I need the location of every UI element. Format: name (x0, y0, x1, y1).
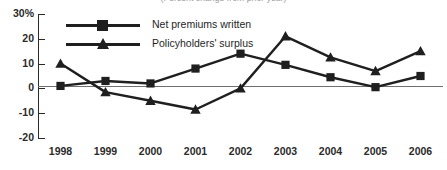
triangle-marker-icon (325, 52, 335, 61)
triangle-marker-icon (280, 31, 290, 40)
y-tick-label: 30% (0, 7, 34, 19)
y-tick-mark (38, 39, 45, 40)
legend-label: Net premiums written (152, 18, 251, 30)
chart-subtitle: (Percent change from prior year) (0, 0, 447, 3)
y-tick-label: -20 (0, 131, 34, 143)
triangle-marker-icon (235, 83, 245, 92)
zero-baseline (38, 86, 443, 87)
triangle-marker-icon (190, 104, 200, 113)
y-axis-line (38, 14, 39, 138)
triangle-marker-icon (55, 58, 65, 67)
square-marker-icon (281, 61, 289, 69)
square-marker-icon (371, 83, 379, 91)
triangle-marker-icon (100, 87, 110, 96)
y-tick-mark (38, 88, 45, 89)
x-tick-label: 2006 (395, 145, 447, 157)
y-tick-label: 20 (0, 32, 34, 44)
triangle-marker-icon (415, 46, 425, 55)
y-tick-mark (38, 64, 45, 65)
y-tick-label: -10 (0, 106, 34, 118)
y-tick-mark (38, 138, 45, 139)
square-marker-icon (236, 50, 244, 58)
chart-container: (Percent change from prior year) 30%2010… (0, 0, 447, 170)
square-marker-icon (191, 64, 199, 72)
y-tick-label: 10 (0, 57, 34, 69)
y-tick-mark (38, 113, 45, 114)
legend-label: Policyholders' surplus (152, 37, 253, 49)
y-tick-label: 0 (0, 81, 34, 93)
triangle-marker-icon (97, 38, 109, 49)
square-marker-icon (416, 72, 424, 80)
triangle-marker-icon (145, 96, 155, 105)
triangle-marker-icon (370, 66, 380, 75)
square-marker-icon (101, 77, 109, 85)
series-net-premiums-written (56, 50, 424, 92)
square-marker-icon (97, 20, 108, 31)
y-tick-mark (38, 14, 45, 15)
series-line (61, 54, 421, 87)
square-marker-icon (326, 73, 334, 81)
